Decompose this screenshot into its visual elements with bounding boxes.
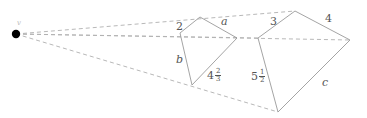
- mixed-whole-part: 4: [207, 70, 214, 81]
- label-right-quad-left-side: 5 1 2: [251, 69, 265, 85]
- fraction-denominator: 3: [215, 75, 221, 83]
- label-right-quad-lower-right-side: c: [322, 77, 328, 88]
- figure-canvas: [0, 0, 367, 118]
- ray-lower-middle: [16, 34, 350, 40]
- center-point-dot: [12, 30, 20, 38]
- geometry-figure: v 2 a b 4 2 3 3 4 5 1 2 c: [0, 0, 367, 118]
- ray-top: [16, 11, 295, 34]
- label-right-quad-top-side: 3: [270, 16, 277, 27]
- label-right-quad-upper-right-side: 4: [325, 13, 332, 24]
- label-left-quad-lower-right-side: 4 2 3: [207, 68, 221, 84]
- label-left-quad-left-side: b: [176, 54, 183, 65]
- mixed-whole-part: 5: [251, 71, 258, 82]
- fraction: 2 3: [215, 68, 221, 84]
- label-left-quad-upper-right-side: a: [221, 16, 228, 27]
- label-left-quad-top-side: 2: [176, 21, 183, 32]
- fraction-numerator: 1: [259, 69, 265, 76]
- center-point-label: v: [17, 20, 21, 27]
- fraction-numerator: 2: [215, 68, 221, 75]
- fraction: 1 2: [259, 69, 265, 85]
- fraction-denominator: 2: [259, 76, 265, 84]
- ray-bottom: [16, 34, 278, 112]
